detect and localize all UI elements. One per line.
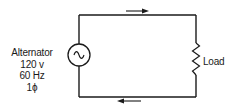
alternator-phase: 1ϕ	[6, 82, 58, 94]
alternator-voltage: 120 v	[6, 59, 58, 71]
current-arrow-left-icon	[117, 99, 141, 104]
alternator-name: Alternator	[6, 47, 58, 59]
current-arrow-right-icon	[126, 9, 149, 14]
alternator-label: Alternator 120 v 60 Hz 1ϕ	[6, 47, 58, 93]
alternator-frequency: 60 Hz	[6, 70, 58, 82]
ac-source-icon	[68, 44, 90, 66]
load-label: Load	[203, 56, 224, 67]
resistor-icon	[193, 43, 200, 75]
